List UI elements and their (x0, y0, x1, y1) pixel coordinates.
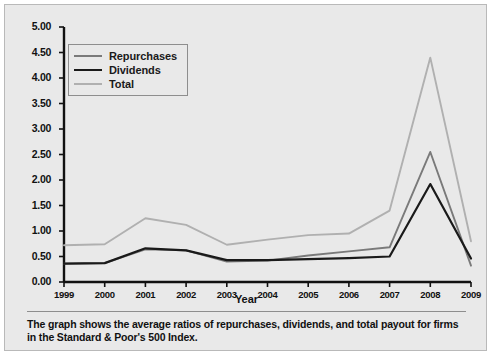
legend-label-total: Total (109, 78, 134, 90)
legend-item-repurchases: Repurchases (74, 49, 177, 63)
legend-label-dividends: Dividends (109, 64, 161, 76)
legend-item-total: Total (74, 77, 177, 91)
caption-divider (27, 311, 466, 312)
y-axis-tick-label: 5.00 (11, 20, 51, 32)
y-axis-tick-label: 0.00 (11, 275, 51, 287)
y-axis-tick-label: 4.00 (11, 71, 51, 83)
x-axis-title: Year (5, 293, 488, 305)
legend-label-repurchases: Repurchases (109, 50, 177, 62)
figure-panel: 0.000.501.001.502.002.503.003.504.004.50… (4, 4, 487, 351)
legend-swatch-total (74, 83, 102, 85)
chart-legend: Repurchases Dividends Total (68, 44, 188, 96)
y-axis-tick-label: 1.00 (11, 224, 51, 236)
y-axis-tick-label: 2.00 (11, 173, 51, 185)
figure-caption: The graph shows the average ratios of re… (27, 318, 469, 344)
legend-swatch-dividends (74, 69, 102, 71)
legend-item-dividends: Dividends (74, 63, 177, 77)
y-axis-tick-label: 3.50 (11, 97, 51, 109)
y-axis-tick-label: 2.50 (11, 148, 51, 160)
legend-swatch-repurchases (74, 55, 102, 57)
chart-plot-area: 0.000.501.001.502.002.503.003.504.004.50… (5, 5, 488, 305)
y-axis-tick-label: 0.50 (11, 250, 51, 262)
y-axis-tick-label: 1.50 (11, 199, 51, 211)
y-axis-tick-label: 3.00 (11, 122, 51, 134)
y-axis-tick-label: 4.50 (11, 46, 51, 58)
